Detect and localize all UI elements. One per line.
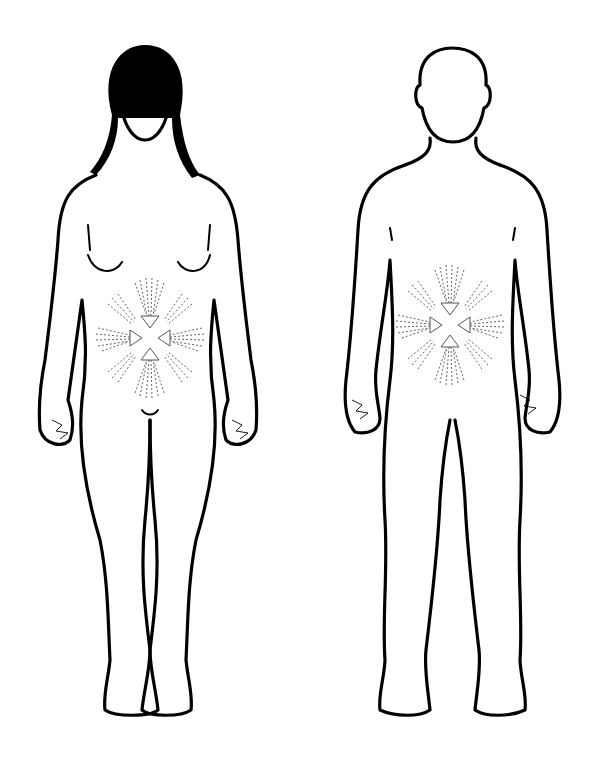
body-diagram [0, 0, 592, 768]
female-figure [39, 45, 257, 715]
male-pain-arrows [396, 265, 504, 385]
female-hair [90, 45, 200, 178]
body-diagram-svg [0, 0, 592, 768]
female-pain-arrows [96, 278, 204, 398]
male-figure [345, 48, 560, 715]
